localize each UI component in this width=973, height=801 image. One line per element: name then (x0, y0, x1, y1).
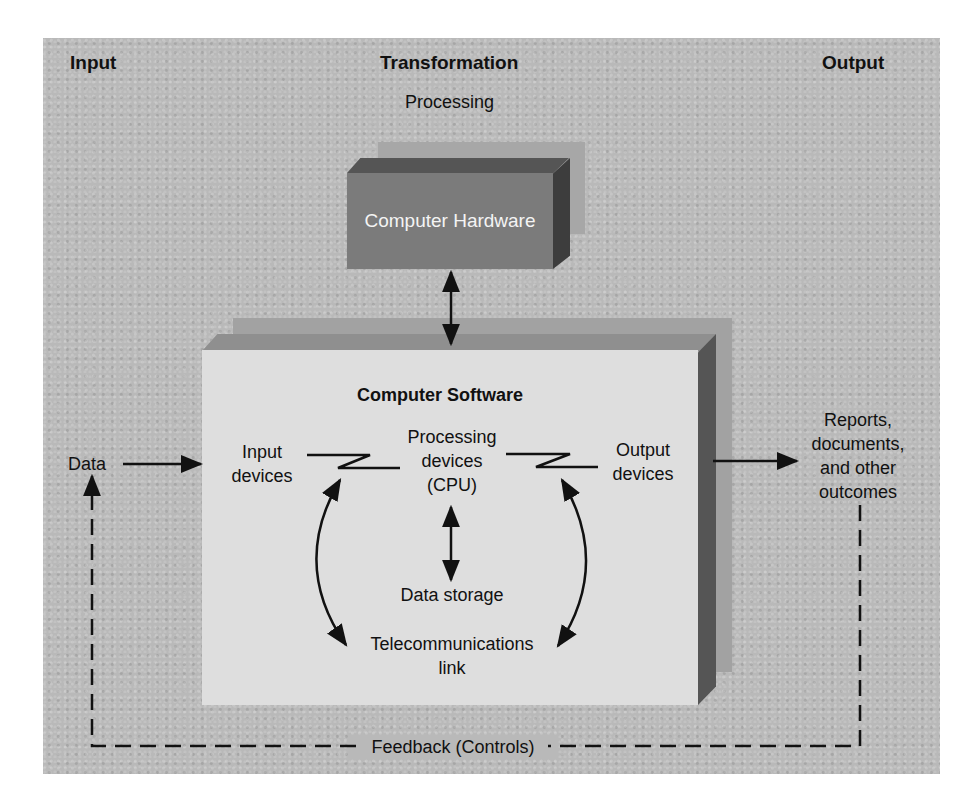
node-output-devices-line1: Output (603, 438, 683, 462)
node-output-devices-line2: devices (603, 462, 683, 486)
node-telecom-line2: link (347, 656, 557, 680)
outcomes-line3: and other (798, 456, 918, 480)
hardware-box-top (347, 158, 569, 173)
node-processing-line2: devices (392, 449, 512, 473)
hardware-box-side (553, 158, 570, 269)
node-input-devices-line1: Input (222, 440, 302, 464)
node-data-storage: Data storage (382, 583, 522, 607)
header-input: Input (70, 52, 116, 74)
label-outcomes: Reports, documents, and other outcomes (798, 408, 918, 504)
hardware-box: Computer Hardware (347, 173, 553, 269)
node-input-devices: Input devices (222, 440, 302, 488)
node-telecom-line1: Telecommunications (347, 632, 557, 656)
hardware-label: Computer Hardware (364, 210, 535, 232)
software-box-side (698, 334, 716, 705)
node-processing-line3: (CPU) (392, 473, 512, 497)
node-processing-line1: Processing (392, 425, 512, 449)
outcomes-line2: documents, (798, 432, 918, 456)
node-telecom-link: Telecommunications link (347, 632, 557, 680)
header-transformation: Transformation (380, 52, 518, 74)
node-output-devices: Output devices (603, 438, 683, 486)
software-box-top (202, 334, 716, 351)
node-processing-devices: Processing devices (CPU) (392, 425, 512, 497)
outcomes-line4: outcomes (798, 480, 918, 504)
header-output: Output (822, 52, 884, 74)
outcomes-line1: Reports, (798, 408, 918, 432)
label-processing: Processing (405, 90, 494, 114)
software-title: Computer Software (357, 385, 523, 406)
label-data: Data (68, 452, 106, 476)
node-input-devices-line2: devices (222, 464, 302, 488)
label-feedback: Feedback (Controls) (348, 735, 558, 759)
